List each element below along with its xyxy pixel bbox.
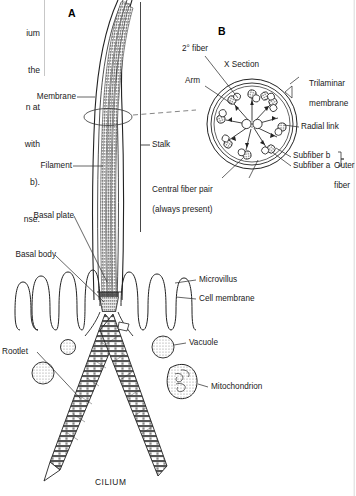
excerpt-line: ium	[0, 27, 40, 39]
label-microvillus: Microvillus	[199, 275, 237, 285]
label-x-section: X Section	[224, 60, 259, 70]
excerpt-line: with	[0, 138, 40, 150]
axoneme-cross-section	[207, 79, 297, 169]
basal-plate-zone	[97, 292, 121, 297]
label-cell-membrane: Cell membrane	[199, 294, 255, 304]
label-line-1: Outer	[334, 161, 354, 170]
label-vacuole: Vacuole	[189, 338, 218, 348]
label-arm: Arm	[185, 76, 200, 86]
label-rootlet: Rootlet	[2, 347, 28, 357]
figure-cilium: ium the n at with b). nse. A B Membrane …	[0, 0, 356, 496]
microvilli-left	[15, 270, 100, 330]
label-radial-link: Radial link	[301, 122, 339, 132]
label-outer-fiber: Outer fiber	[325, 151, 355, 201]
microvilli-right	[121, 272, 196, 330]
excerpt-line: n at	[0, 101, 40, 113]
label-central-fiber-pair: Central fiber pair (always present)	[143, 175, 213, 225]
panel-label-a: A	[68, 7, 76, 19]
label-mitochondrion: Mitochondrion	[211, 382, 262, 392]
axoneme-filaments	[101, 2, 133, 299]
vacuole	[152, 336, 174, 358]
label-basal-plate: Basal plate	[0, 211, 74, 221]
label-trilaminar-membrane: Trilaminar membrane	[300, 69, 348, 119]
mitochondrion	[167, 364, 197, 398]
vacuole-small-left	[61, 340, 76, 355]
label-membrane: Membrane	[0, 92, 76, 102]
rootlet-vesicle	[32, 362, 54, 384]
label-line-1: Central fiber pair	[152, 185, 213, 194]
figure-caption: CILIUM	[95, 477, 126, 487]
excerpt-line: b).	[0, 176, 40, 188]
label-line-2: (always present)	[152, 205, 212, 214]
label-stalk: Stalk	[152, 140, 170, 150]
basal-body	[99, 297, 119, 312]
label-line-2: membrane	[309, 99, 348, 108]
label-filament: Filament	[0, 161, 72, 171]
label-secondary-fiber: 2° fiber	[182, 44, 208, 54]
label-line-1: Trilaminar	[309, 79, 345, 88]
excerpt-line: the	[0, 64, 40, 76]
label-basal-body: Basal body	[0, 250, 56, 260]
panel-label-b: B	[218, 25, 226, 37]
label-line-2: fiber	[334, 181, 350, 190]
